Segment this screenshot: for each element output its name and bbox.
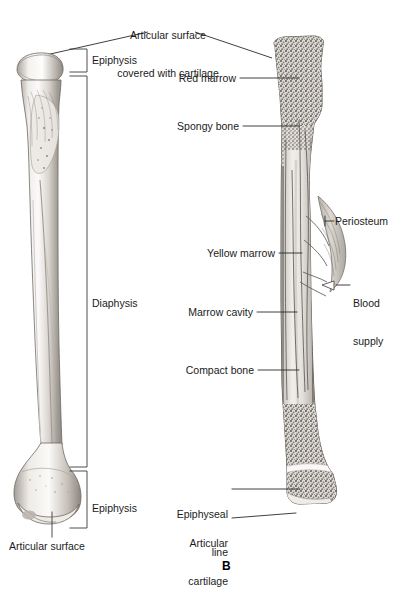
callout-label-compact-bone: Compact bone [150,364,254,377]
panel-letter-b: B [222,559,231,573]
callout-label-marrow-cavity: Marrow cavity [150,306,253,319]
figure-title-line1: Articular surface [98,29,238,42]
bracket-label-epiphysis-top: Epiphysis [92,54,137,67]
callout-label-articular-cartilage: Articular cartilage [140,512,228,591]
bracket-label-diaphysis: Diaphysis [92,297,138,310]
callout-label-periosteum: Periosteum [335,215,388,228]
left-bone-illustration [14,53,81,524]
callout-label-articular-cartilage-line1: Articular [140,537,228,550]
callout-label-red-marrow: Red marrow [140,72,236,85]
callout-label-spongy-bone: Spongy bone [140,120,239,133]
callout-label-blood-supply-line1: Blood [353,297,383,310]
right-bone-illustration [272,30,346,510]
callout-label-articular-surface: Articular surface [9,540,85,553]
callout-label-yellow-marrow: Yellow marrow [170,247,275,260]
callout-label-articular-cartilage-line2: cartilage [140,575,228,588]
callout-label-blood-supply: Blood supply [353,272,383,360]
bracket-label-epiphysis-bottom: Epiphysis [92,502,137,515]
callout-label-blood-supply-line2: supply [353,335,383,348]
